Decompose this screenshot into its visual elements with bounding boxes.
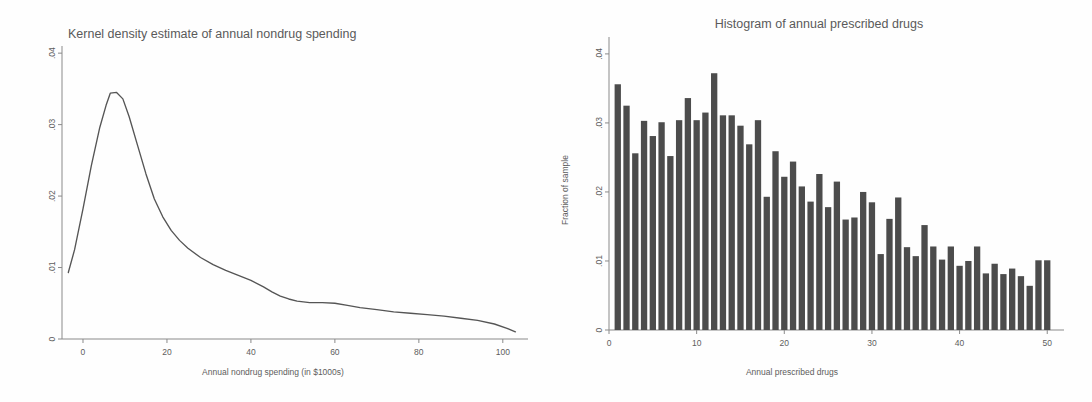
table-row — [913, 256, 919, 330]
x-tick-label-left-5: 100 — [496, 347, 510, 357]
table-row — [895, 197, 901, 330]
y-tick-label-right-0: 0 — [594, 327, 604, 332]
x-tick-label-right-2: 20 — [780, 338, 790, 348]
x-axis-tick-labels-right: 01020304050 — [607, 338, 1053, 348]
table-row — [930, 246, 936, 330]
figure-canvas: Kernel density estimate of annual nondru… — [0, 0, 1092, 402]
table-row — [685, 98, 691, 330]
table-row — [755, 120, 761, 330]
y-axis-tick-labels-left: 0.01.02.03.04 — [47, 47, 57, 341]
x-tick-label-right-0: 0 — [607, 338, 612, 348]
table-row — [772, 151, 778, 330]
table-row — [737, 126, 743, 330]
histogram-svg: Histogram of annual prescribed drugs Fra… — [546, 0, 1092, 402]
table-row — [623, 106, 629, 330]
table-row — [702, 113, 708, 330]
y-tick-label-right-1: .01 — [594, 255, 604, 267]
kernel-density-svg: Kernel density estimate of annual nondru… — [0, 0, 546, 402]
y-tick-label-right-2: .02 — [594, 186, 604, 198]
density-curve — [68, 92, 515, 331]
x-tick-label-left-1: 20 — [162, 347, 172, 357]
histogram-bars — [615, 73, 1051, 330]
y-axis-tick-labels-right: 0.01.02.03.04 — [594, 48, 604, 333]
page-title-right: Histogram of annual prescribed drugs — [715, 17, 923, 31]
x-axis-title-right: Annual prescribed drugs — [746, 367, 838, 377]
table-row — [650, 136, 656, 330]
y-tick-label-left-0: 0 — [47, 336, 57, 341]
table-row — [667, 156, 673, 330]
table-row — [851, 217, 857, 330]
table-row — [1018, 276, 1024, 330]
table-row — [632, 153, 638, 330]
x-tick-label-right-3: 30 — [867, 338, 877, 348]
table-row — [904, 247, 910, 330]
table-row — [816, 174, 822, 330]
table-row — [991, 264, 997, 330]
table-row — [658, 122, 664, 330]
table-row — [799, 186, 805, 330]
x-tick-label-right-1: 10 — [692, 338, 702, 348]
table-row — [711, 73, 717, 330]
table-row — [746, 144, 752, 330]
table-row — [1009, 269, 1015, 330]
y-tick-label-right-4: .04 — [594, 48, 604, 60]
table-row — [807, 202, 813, 330]
table-row — [965, 261, 971, 330]
table-row — [641, 121, 647, 330]
panel-histogram: Histogram of annual prescribed drugs Fra… — [546, 0, 1092, 402]
table-row — [764, 197, 770, 330]
table-row — [790, 162, 796, 330]
table-row — [983, 273, 989, 330]
table-row — [921, 225, 927, 330]
table-row — [869, 202, 875, 330]
y-tick-label-left-3: .03 — [47, 118, 57, 130]
table-row — [878, 254, 884, 330]
x-tick-label-right-5: 50 — [1043, 338, 1053, 348]
table-row — [1044, 260, 1050, 330]
table-row — [842, 220, 848, 330]
table-row — [615, 84, 621, 330]
y-axis-title-right: Fraction of sample — [560, 155, 570, 225]
table-row — [860, 192, 866, 330]
y-tick-label-left-4: .04 — [47, 47, 57, 59]
panel-kernel-density: Kernel density estimate of annual nondru… — [0, 0, 546, 402]
table-row — [1000, 274, 1006, 330]
table-row — [729, 115, 735, 330]
x-tick-label-left-4: 80 — [414, 347, 424, 357]
table-row — [956, 266, 962, 330]
y-tick-label-right-3: .03 — [594, 117, 604, 129]
table-row — [948, 246, 954, 330]
x-tick-label-left-0: 0 — [81, 347, 86, 357]
table-row — [974, 246, 980, 330]
page-title-left: Kernel density estimate of annual nondru… — [68, 27, 356, 41]
x-tick-label-right-4: 40 — [955, 338, 965, 348]
table-row — [693, 120, 699, 330]
x-tick-label-left-3: 60 — [330, 347, 340, 357]
table-row — [1035, 260, 1041, 330]
axes-left — [58, 46, 528, 343]
table-row — [886, 219, 892, 330]
x-axis-tick-labels-left: 020406080100 — [81, 347, 511, 357]
table-row — [825, 207, 831, 330]
x-axis-title-left: Annual nondrug spending (in $1000s) — [202, 367, 344, 377]
table-row — [676, 120, 682, 330]
table-row — [720, 115, 726, 330]
table-row — [1027, 286, 1033, 330]
table-row — [834, 182, 840, 330]
y-tick-label-left-2: .02 — [47, 190, 57, 202]
y-tick-label-left-1: .01 — [47, 261, 57, 273]
table-row — [939, 260, 945, 330]
table-row — [781, 177, 787, 330]
x-tick-label-left-2: 40 — [246, 347, 256, 357]
